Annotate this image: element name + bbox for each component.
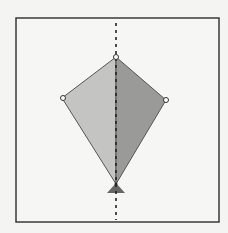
kite-symmetry-diagram: [0, 0, 228, 233]
vertex-handle-top[interactable]: [114, 55, 119, 60]
vertex-handle-right[interactable]: [164, 98, 169, 103]
vertex-bottom: [115, 183, 118, 186]
vertex-handle-left[interactable]: [61, 96, 66, 101]
